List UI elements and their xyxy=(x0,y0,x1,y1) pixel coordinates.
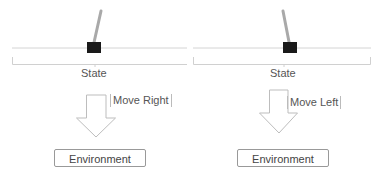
environment-box: Environment xyxy=(237,149,329,167)
panel-move-left: State Move Left Environment xyxy=(188,0,376,175)
environment-box: Environment xyxy=(54,149,146,167)
cart xyxy=(283,42,297,53)
pole xyxy=(283,11,290,47)
action-label: Move Left xyxy=(287,96,341,109)
state-bracket xyxy=(13,57,188,67)
action-label: Move Right xyxy=(110,94,172,107)
panel-move-right: State Move Right Environment xyxy=(0,0,188,175)
state-bracket xyxy=(194,57,371,67)
pole xyxy=(93,11,101,47)
state-label: State xyxy=(81,67,107,79)
state-label: State xyxy=(270,67,296,79)
cart xyxy=(87,42,101,53)
